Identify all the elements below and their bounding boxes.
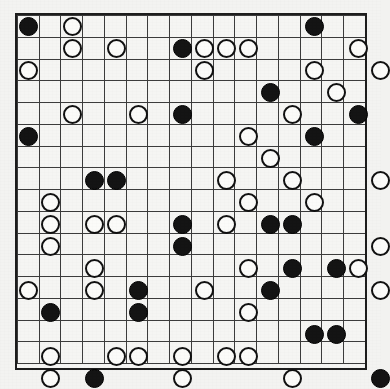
stone-white[interactable] (85, 281, 104, 300)
stone-white[interactable] (195, 39, 214, 58)
stone-black[interactable] (129, 281, 148, 300)
stone-white[interactable] (195, 61, 214, 80)
stone-white[interactable] (41, 237, 60, 256)
stone-white[interactable] (327, 83, 346, 102)
stone-white[interactable] (107, 347, 126, 366)
stone-white[interactable] (239, 347, 258, 366)
stone-black[interactable] (19, 127, 38, 146)
stone-black[interactable] (283, 259, 302, 278)
stone-black[interactable] (173, 215, 192, 234)
stone-white[interactable] (217, 39, 236, 58)
stone-black[interactable] (261, 281, 280, 300)
stone-white[interactable] (107, 215, 126, 234)
stone-white[interactable] (173, 347, 192, 366)
stone-white[interactable] (85, 215, 104, 234)
stone-black[interactable] (261, 215, 280, 234)
stone-white[interactable] (63, 105, 82, 124)
stone-white[interactable] (63, 17, 82, 36)
stone-white[interactable] (217, 215, 236, 234)
stone-black[interactable] (173, 39, 192, 58)
stone-white[interactable] (173, 369, 192, 388)
stone-white[interactable] (349, 259, 368, 278)
stone-white[interactable] (239, 193, 258, 212)
stone-white[interactable] (217, 347, 236, 366)
board-frame (15, 13, 367, 370)
stone-white[interactable] (349, 39, 368, 58)
stone-white[interactable] (41, 215, 60, 234)
stone-white[interactable] (261, 149, 280, 168)
stone-white[interactable] (371, 61, 390, 80)
stone-white[interactable] (239, 303, 258, 322)
stone-white[interactable] (85, 259, 104, 278)
stone-white[interactable] (305, 61, 324, 80)
stone-black[interactable] (327, 325, 346, 344)
stone-black[interactable] (305, 17, 324, 36)
stone-white[interactable] (371, 171, 390, 190)
stone-black[interactable] (85, 369, 104, 388)
stone-white[interactable] (19, 61, 38, 80)
stone-black[interactable] (305, 127, 324, 146)
stone-black[interactable] (305, 325, 324, 344)
stone-black[interactable] (261, 83, 280, 102)
stone-white[interactable] (107, 39, 126, 58)
stone-white[interactable] (283, 171, 302, 190)
stone-white[interactable] (41, 347, 60, 366)
stone-black[interactable] (107, 171, 126, 190)
stone-white[interactable] (129, 105, 148, 124)
stone-white[interactable] (41, 193, 60, 212)
stone-black[interactable] (41, 303, 60, 322)
stone-white[interactable] (239, 127, 258, 146)
stone-black[interactable] (129, 303, 148, 322)
stone-white[interactable] (239, 259, 258, 278)
stone-white[interactable] (371, 237, 390, 256)
stone-white[interactable] (371, 281, 390, 300)
stone-black[interactable] (349, 105, 368, 124)
stone-white[interactable] (19, 281, 38, 300)
stone-white[interactable] (195, 281, 214, 300)
stone-white[interactable] (63, 39, 82, 58)
stone-black[interactable] (173, 105, 192, 124)
stone-white[interactable] (283, 369, 302, 388)
stone-layer[interactable] (17, 15, 365, 368)
stone-black[interactable] (327, 259, 346, 278)
stone-white[interactable] (239, 39, 258, 58)
stone-black[interactable] (371, 369, 390, 388)
stone-white[interactable] (217, 171, 236, 190)
stone-black[interactable] (19, 17, 38, 36)
stone-black[interactable] (283, 215, 302, 234)
stone-black[interactable] (173, 237, 192, 256)
stone-white[interactable] (41, 369, 60, 388)
stone-white[interactable] (305, 193, 324, 212)
stone-white[interactable] (129, 347, 148, 366)
stone-black[interactable] (85, 171, 104, 190)
stone-white[interactable] (283, 105, 302, 124)
